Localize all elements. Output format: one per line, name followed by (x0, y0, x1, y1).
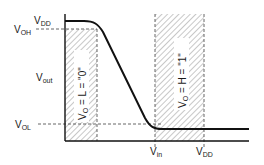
vout-label: Vout (36, 72, 52, 84)
transfer-characteristic-diagram: VDD VOH Vout VOL Vin VDD VO = L = "0" VO… (0, 0, 264, 165)
vdd-label: VDD (34, 15, 51, 27)
vdd-x-label: VDD (196, 146, 213, 158)
vol-label: VOL (15, 119, 31, 131)
vin-label: Vin (150, 146, 162, 158)
voh-label: VOH (14, 24, 31, 36)
